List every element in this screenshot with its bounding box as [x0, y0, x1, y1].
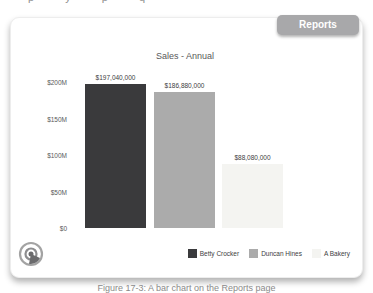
bar-value-label: $88,080,000 — [213, 154, 293, 162]
legend-label: A Bakery — [324, 250, 350, 257]
legend-label: Betty Crocker — [200, 250, 239, 257]
legend-label: Duncan Hines — [261, 250, 302, 257]
legend-item-a-bakery: A Bakery — [312, 249, 350, 258]
y-axis-label: $150M — [25, 116, 67, 123]
legend-swatch — [249, 249, 258, 258]
bar-chart: $0$50M$100M$150M$200M$197,040,000$186,88… — [11, 18, 362, 277]
legend-item-betty-crocker: Betty Crocker — [188, 249, 239, 258]
cropped-text-top: p y p q — [28, 0, 228, 3]
figure-caption: Figure 17-3: A bar chart on the Reports … — [0, 283, 373, 293]
y-axis-label: $100M — [25, 152, 67, 159]
bar-value-label: $197,040,000 — [76, 74, 156, 82]
brand-spiral-logo-icon — [17, 240, 45, 268]
legend-swatch — [188, 249, 197, 258]
y-axis-label: $50M — [25, 189, 67, 196]
bar-value-label: $186,880,000 — [145, 82, 225, 90]
bar-duncan-hines — [154, 92, 215, 228]
bar-betty-crocker — [85, 84, 146, 228]
report-card: Reports Sales - Annual $0$50M$100M$150M$… — [10, 17, 363, 278]
bar-a-bakery — [222, 164, 283, 228]
y-axis-label: $200M — [25, 79, 67, 86]
chart-legend: Betty CrockerDuncan HinesA Bakery — [188, 249, 350, 258]
legend-swatch — [312, 249, 321, 258]
legend-item-duncan-hines: Duncan Hines — [249, 249, 302, 258]
y-axis-label: $0 — [25, 225, 67, 232]
